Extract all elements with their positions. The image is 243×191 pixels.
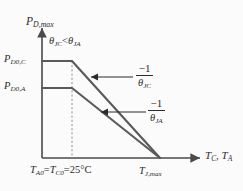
slope-annotation-theta-jc: −1 θJC <box>136 63 153 90</box>
y-tick-label-pd0c: PD0,C <box>4 54 26 66</box>
x-tick-label-tjmax: TJ,max <box>139 166 162 178</box>
x-tick-temp-value: 25°C <box>70 164 92 175</box>
slope-annotation-theta-ja: −1 θJA <box>148 98 165 125</box>
theta-jc-subscript: JC <box>54 40 62 48</box>
slope-jc-theta-sub: JC <box>143 82 151 90</box>
y-axis-title-main: P <box>26 15 33 27</box>
slope-jc-fraction-bar <box>136 75 153 76</box>
derating-curve-theta-ja <box>42 88 160 158</box>
y-tick-c-sub: D0,C <box>10 58 25 66</box>
slope-jc-numerator: −1 <box>136 63 153 75</box>
slope-ja-denominator: θJA <box>148 112 165 125</box>
x-tick-ta0-sub: A0 <box>36 169 44 177</box>
x-tick-tjmax-sub: J,max <box>145 170 162 178</box>
x-axis-title-ta-sub: A <box>228 154 233 163</box>
slope-ja-numerator: −1 <box>148 98 165 110</box>
y-tick-a-sub: D0,A <box>10 85 25 93</box>
slope-ja-theta-sub: JA <box>155 117 163 125</box>
y-axis-title: PD,max <box>26 16 54 29</box>
theta-inequality-annotation: θJC<θJA <box>49 36 81 48</box>
y-tick-label-pd0a: PD0,A <box>4 81 25 93</box>
slope-ja-fraction-bar <box>148 110 165 111</box>
x-axis-title: TC, TA <box>205 150 232 162</box>
theta-ja-subscript: JA <box>73 40 81 48</box>
slope-jc-denominator: θJC <box>136 77 153 90</box>
x-tick-label-origin-temp: TA0=TC0=25°C <box>30 165 91 177</box>
y-axis-title-sub: D,max <box>33 20 54 29</box>
x-tick-tc0-sub: C0 <box>56 169 64 177</box>
derating-chart-figure: PD,max PD0,C PD0,A θJC<θJA −1 θJC −1 θJA… <box>0 0 243 191</box>
